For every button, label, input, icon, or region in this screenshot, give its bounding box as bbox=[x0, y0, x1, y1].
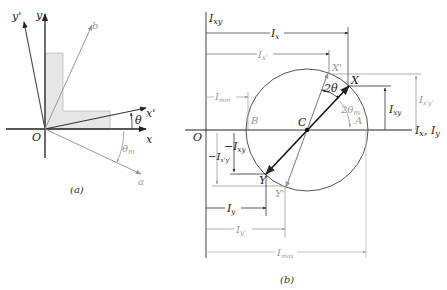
origin-label-b: O bbox=[193, 131, 202, 144]
point-b-label: B bbox=[250, 115, 258, 126]
y-axis-label: y bbox=[35, 9, 43, 22]
mohr-circle-figure: O x y x' y' b a θ θm (a) bbox=[0, 0, 447, 290]
theta-m-label: θm bbox=[122, 143, 135, 156]
theta-label: θ bbox=[135, 114, 142, 127]
a-axis-label: a bbox=[138, 176, 144, 187]
y-prime-axis bbox=[24, 22, 45, 129]
panel-b: Ixy Ix, Iy O C X X' Y Y' A B 2θ 2θm Ix I… bbox=[185, 12, 440, 285]
origin-label-a: O bbox=[32, 131, 41, 144]
ixy-axis-label: Ixy bbox=[208, 12, 223, 26]
caption-a: (a) bbox=[70, 184, 84, 195]
y-prime-axis-label: y' bbox=[11, 10, 21, 23]
theta-arc bbox=[131, 113, 132, 129]
ix-iy-axis-label: Ix, Iy bbox=[414, 124, 440, 138]
point-x-prime-label: X' bbox=[331, 62, 342, 73]
b-axis-label: b bbox=[92, 20, 98, 31]
point-c-label: C bbox=[298, 116, 307, 129]
two-theta-m-label: 2θm bbox=[340, 104, 360, 117]
x-prime-axis-label: x' bbox=[146, 107, 155, 120]
caption-b: (b) bbox=[280, 274, 294, 285]
panel-a: O x y x' y' b a θ θm (a) bbox=[6, 9, 155, 195]
neg-ixy-label: −Ixy bbox=[224, 140, 247, 154]
point-x-label: X bbox=[350, 74, 360, 87]
ixy-label: Ixy bbox=[388, 103, 402, 117]
ixpyp-label: Ix'y' bbox=[418, 94, 433, 107]
point-y-prime-label: Y' bbox=[275, 188, 284, 199]
x-axis-label: x bbox=[146, 133, 153, 146]
two-theta-label: 2θ bbox=[323, 82, 338, 95]
